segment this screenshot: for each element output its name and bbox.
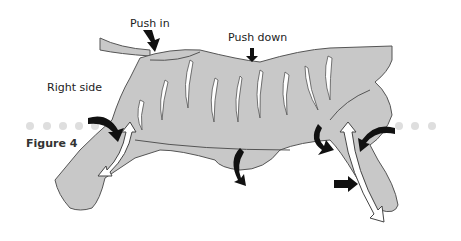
push-in-label: Push in [130,17,170,30]
hind-leg-push-arrow-icon [334,176,358,192]
right-side-label: Right side [47,81,102,94]
push-down-label: Push down [228,31,287,44]
neck-strip [100,38,150,56]
figure-caption: Figure 4 [26,137,77,150]
push-in-arrow-icon [143,30,160,52]
dotted-guide-right [395,122,436,130]
